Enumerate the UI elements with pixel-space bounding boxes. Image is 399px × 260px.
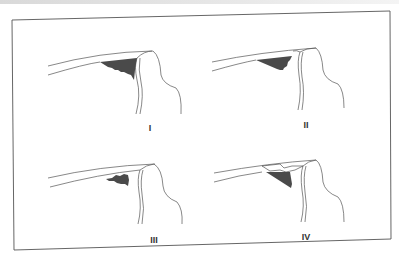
anatomy-outline [212, 48, 344, 110]
detached-flap [262, 164, 303, 172]
shaded-fragment [106, 174, 129, 186]
panel-label: I [149, 123, 152, 133]
panel-label: II [303, 120, 308, 130]
shaded-wedge [256, 56, 292, 70]
figure-illustration: I II III [0, 0, 399, 260]
panel-label: IV [302, 232, 311, 242]
shaded-wedge [266, 172, 292, 188]
shaded-wedge [100, 58, 137, 80]
figure-border [12, 11, 391, 250]
anatomy-outline [214, 160, 344, 222]
panel-2: II [212, 48, 344, 130]
panel-1: I [48, 51, 181, 133]
panel-3: III [48, 164, 182, 245]
anatomy-outline [48, 164, 182, 224]
panel-label: III [150, 235, 158, 245]
panel-4: IV [214, 160, 344, 242]
